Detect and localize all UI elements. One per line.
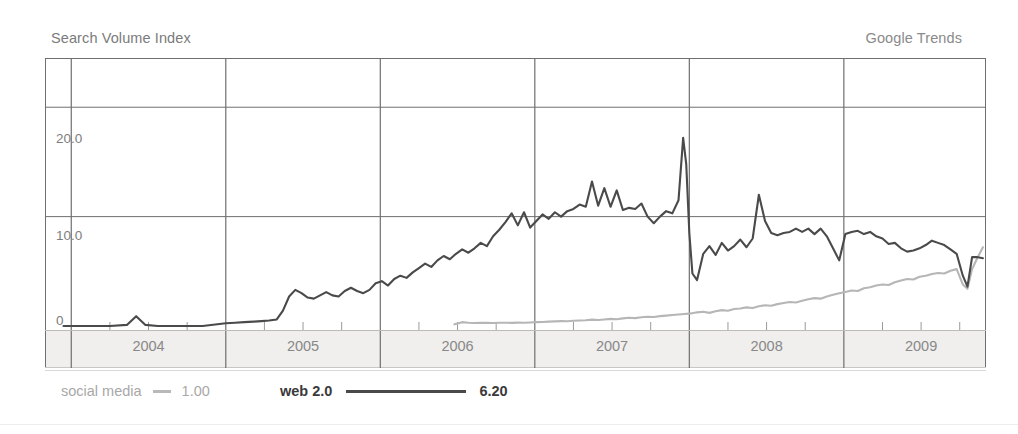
legend-swatch-web-20	[346, 390, 466, 393]
legend-item-web-20[interactable]: web 2.0 6.20	[280, 383, 508, 399]
x-tick-label-2004: 2004	[71, 338, 226, 354]
legend-item-social-media[interactable]: social media 1.00	[61, 383, 210, 399]
x-tick-label-2006: 2006	[380, 338, 535, 354]
legend-swatch-social-media	[153, 390, 171, 393]
chart-legend: social media 1.00 web 2.0 6.20	[45, 378, 986, 412]
legend-label-web-20: web 2.0	[280, 383, 332, 399]
plot-area[interactable]	[45, 58, 986, 368]
x-tick-label-2005: 2005	[226, 338, 381, 354]
legend-value-web-20: 6.20	[479, 383, 507, 399]
x-tick-label-2008: 2008	[689, 338, 844, 354]
y-tick-label-0: 0	[56, 313, 64, 328]
y-tick-label-20: 20.0	[56, 131, 82, 146]
google-trends-chart-page: Search Volume Index Google Trends 20.0 1…	[0, 0, 1018, 434]
plot-background	[45, 58, 986, 331]
x-tick-label-2007: 2007	[535, 338, 690, 354]
legend-value-social-media: 1.00	[182, 383, 210, 399]
trends-line-chart[interactable]	[45, 58, 986, 368]
page-bottom-edge	[0, 424, 1018, 434]
y-axis-title: Search Volume Index	[51, 30, 191, 46]
chart-header: Search Volume Index Google Trends	[0, 30, 1018, 52]
x-tick-label-2009: 2009	[844, 338, 999, 354]
legend-divider	[45, 370, 986, 371]
legend-label-social-media: social media	[61, 383, 142, 399]
source-label: Google Trends	[866, 30, 962, 46]
y-tick-label-10: 10.0	[56, 228, 82, 243]
